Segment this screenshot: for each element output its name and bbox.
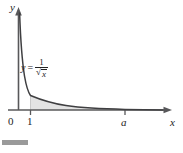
page-corner-mark — [2, 140, 28, 145]
y-axis-arrowhead — [15, 7, 22, 16]
x-axis-label: x — [170, 117, 175, 128]
x-tick-label-a: a — [121, 117, 127, 128]
square-root-icon: √ x — [36, 68, 47, 79]
shaded-area-region — [31, 96, 126, 111]
radicand: x — [41, 69, 47, 79]
curve-equation-label: y = 1 √ x — [21, 58, 48, 79]
x-tick-label-1: 1 — [27, 116, 33, 127]
x-axis-arrowhead — [164, 107, 173, 114]
equation-equals-sign: = — [27, 63, 33, 73]
equation-lhs: y — [21, 63, 25, 73]
fraction-denominator: √ x — [35, 68, 48, 79]
function-graph-figure: y x 0 1 a y = 1 √ x — [0, 0, 183, 153]
origin-label: 0 — [8, 116, 14, 127]
y-axis-label: y — [10, 2, 15, 13]
fraction-numerator: 1 — [38, 58, 45, 67]
equation-fraction: 1 √ x — [35, 58, 48, 79]
